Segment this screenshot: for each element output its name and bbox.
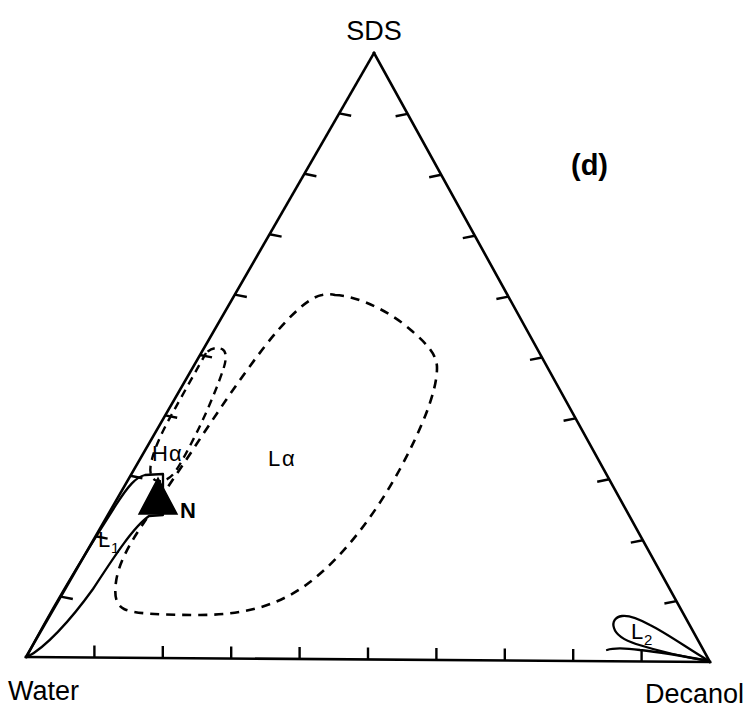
tick-left-1 [61,597,73,599]
region-label-l1-main: L [98,527,110,552]
panel-label: (d) [571,149,608,181]
l2-region-boundary [607,616,709,661]
ternary-diagram-canvas: Water SDS Decanol (d) L α H α N L 1 L 2 [0,0,752,721]
region-label-nematic: N [180,498,196,523]
tick-right-8 [631,540,643,542]
water-vertex-label: Water [8,676,79,706]
sds-vertex-label: SDS [346,16,402,46]
region-label-l1: L 1 [98,527,119,556]
region-label-l2-main: L [631,619,643,644]
tick-left-9 [339,113,351,115]
tick-right-2 [429,175,441,177]
l2-region-outline [613,616,709,661]
tick-right-6 [564,418,576,420]
region-label-halpha: H α [152,441,182,466]
ternary-phase-diagram-figure: Water SDS Decanol (d) L α H α N L 1 L 2 [0,0,752,721]
tick-right-7 [597,479,609,481]
tick-right-3 [463,236,475,238]
tick-right-1 [396,114,408,116]
triangle-axes [26,53,710,662]
region-label-nematic-main: N [180,498,196,523]
region-label-l1-sub: 1 [111,539,119,556]
tick-left-7 [270,234,282,236]
region-label-halpha-main: H [152,441,168,466]
tick-right-4 [496,297,508,299]
tick-left-8 [304,174,316,176]
tick-left-6 [235,295,247,297]
region-label-l2-sub: 2 [644,631,652,648]
region-label-lalpha-main: L [268,446,280,471]
l1-region-outline [27,474,163,657]
decanol-vertex-label: Decanol [645,679,744,709]
tick-right-9 [664,601,676,603]
tick-right-5 [530,358,542,360]
region-label-lalpha: L α [268,446,295,471]
region-label-lalpha-alpha: α [282,446,295,471]
region-label-halpha-alpha: α [169,441,182,466]
l1-region-boundary [27,474,163,657]
ticks-right-edge [396,114,677,604]
